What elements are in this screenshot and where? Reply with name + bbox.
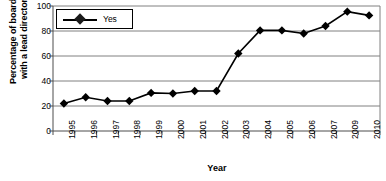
x-tick-label: 2009 [351,120,360,139]
x-tick-label: 1998 [133,120,142,139]
data-point-marker [169,89,177,97]
data-point-marker [212,87,220,95]
x-tick-label: 1995 [68,120,77,139]
data-point-marker [125,97,133,105]
x-tick-label: 2010 [373,120,382,139]
x-tick-label: 2005 [286,120,295,139]
x-tick-label: 1996 [90,120,99,139]
y-axis-ticks [49,6,53,131]
line-chart: Percentage of boards with a lead directo… [0,0,386,181]
x-tick-label: 2007 [330,120,339,139]
data-point-marker [147,89,155,97]
x-tick-label: 1999 [155,120,164,139]
x-tick-label: 2003 [242,120,251,139]
x-axis-title: Year [53,163,381,173]
x-tick-label: 2002 [221,120,230,139]
data-point-marker [103,97,111,105]
data-point-marker [82,93,90,101]
data-point-marker [278,26,286,34]
data-point-marker [191,87,199,95]
x-tick-label: 2004 [264,120,273,139]
legend: Yes [56,9,133,29]
diamond-marker-icon [74,13,85,24]
x-tick-label: 2006 [308,120,317,139]
x-tick-label: 2001 [199,120,208,139]
x-tick-label: 2000 [177,120,186,139]
data-point-marker [365,11,373,19]
data-point-marker [343,7,351,15]
x-tick-label: 1997 [112,120,121,139]
legend-label: Yes [103,14,117,25]
data-point-marker [321,22,329,30]
